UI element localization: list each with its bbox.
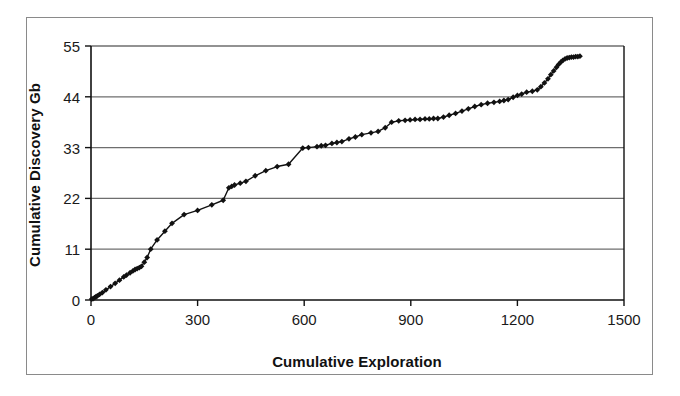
data-point-marker xyxy=(441,114,447,120)
data-point-marker xyxy=(497,99,503,105)
data-point-marker xyxy=(352,134,358,140)
data-point-marker xyxy=(524,89,530,95)
data-point-marker xyxy=(346,136,352,142)
gridlines xyxy=(91,46,624,249)
x-tick-label: 0 xyxy=(87,311,95,328)
creaming-curve-chart: 01122334455 030060090012001500 Cumulativ… xyxy=(0,0,680,396)
data-series-markers xyxy=(89,53,583,302)
data-series-line xyxy=(92,56,580,299)
y-axis-title: Cumulative Discovery Gb xyxy=(26,83,43,267)
data-point-marker xyxy=(339,139,345,145)
data-point-marker xyxy=(314,144,320,150)
data-point-marker xyxy=(329,141,335,147)
data-point-marker xyxy=(435,116,441,122)
x-tick-label: 300 xyxy=(185,311,210,328)
x-tick-label: 1500 xyxy=(607,311,640,328)
data-point-marker xyxy=(459,108,465,114)
data-point-marker xyxy=(306,145,312,151)
y-tick-label: 55 xyxy=(63,38,80,55)
data-point-marker xyxy=(446,112,452,118)
data-point-marker xyxy=(209,202,215,208)
y-tick-label: 0 xyxy=(72,292,80,309)
x-tick-label: 900 xyxy=(398,311,423,328)
data-point-marker xyxy=(334,140,340,146)
data-point-marker xyxy=(396,118,402,124)
x-axis-title: Cumulative Exploration xyxy=(272,353,442,370)
data-point-marker xyxy=(453,111,459,117)
x-tick-label: 1200 xyxy=(501,311,534,328)
data-point-marker xyxy=(412,117,418,123)
y-tick-label: 33 xyxy=(63,140,80,157)
data-point-marker xyxy=(195,208,201,214)
data-point-marker xyxy=(478,102,484,108)
x-tick-label: 600 xyxy=(292,311,317,328)
data-point-marker xyxy=(237,180,243,186)
data-point-marker xyxy=(465,106,471,112)
data-point-marker xyxy=(263,168,269,174)
y-tick-label: 11 xyxy=(64,241,80,258)
y-tick-label: 22 xyxy=(63,190,80,207)
data-point-marker xyxy=(505,97,511,103)
data-point-marker xyxy=(501,98,507,104)
figure-container: 01122334455 030060090012001500 Cumulativ… xyxy=(0,0,680,396)
data-point-marker xyxy=(417,117,423,123)
data-point-marker xyxy=(472,104,478,110)
data-point-marker xyxy=(359,132,365,138)
data-point-marker xyxy=(529,88,535,94)
data-point-marker xyxy=(485,100,491,106)
data-point-marker xyxy=(368,130,374,136)
data-point-marker xyxy=(274,164,280,170)
x-axis-ticks: 030060090012001500 xyxy=(87,300,641,328)
data-point-marker xyxy=(407,117,413,123)
data-point-marker xyxy=(491,99,497,105)
y-axis-ticks: 01122334455 xyxy=(63,38,91,309)
y-tick-label: 44 xyxy=(63,89,80,106)
data-point-marker xyxy=(402,117,408,123)
data-point-marker xyxy=(375,129,381,135)
